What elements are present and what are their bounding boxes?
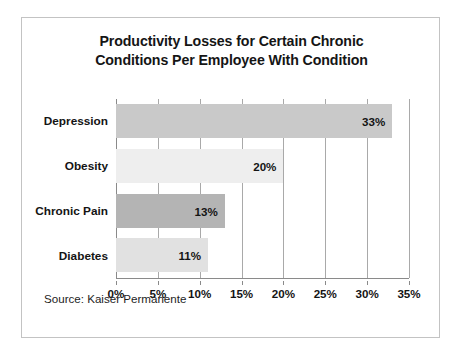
chart-title: Productivity Losses for Certain Chronic …: [22, 32, 441, 70]
bar-value-label: 20%: [253, 159, 276, 172]
plot-area: 33%20%13%11% DepressionObesityChronic Pa…: [116, 99, 409, 278]
category-label-slot: Chronic Pain: [0, 189, 108, 234]
bar-row: 13%: [116, 189, 409, 234]
tick-mark: [116, 281, 117, 285]
chart-title-line-2: Conditions Per Employee With Condition: [22, 51, 441, 70]
tick-mark: [367, 281, 368, 285]
category-label-slot: Depression: [0, 99, 108, 144]
bar-row: 11%: [116, 233, 409, 278]
bar-series: 33%20%13%11%: [116, 99, 409, 278]
bar-depression[interactable]: 33%: [116, 104, 392, 138]
category-label-slot: Obesity: [0, 144, 108, 189]
bar-chronic-pain[interactable]: 13%: [116, 194, 225, 228]
chart-title-line-1: Productivity Losses for Certain Chronic: [22, 32, 441, 51]
category-label-diabetes: Diabetes: [59, 249, 108, 263]
category-label-slot: Diabetes: [0, 233, 108, 278]
x-axis-line: [116, 278, 409, 279]
category-label-chronic-pain: Chronic Pain: [35, 204, 108, 218]
tick-mark: [409, 281, 410, 285]
tick-mark: [200, 281, 201, 285]
chart-figure-frame: Productivity Losses for Certain Chronic …: [21, 17, 440, 338]
category-label-obesity: Obesity: [65, 159, 108, 173]
tick-mark: [283, 281, 284, 285]
bar-row: 33%: [116, 99, 409, 144]
source-note: Source: Kaiser Permanente: [44, 292, 186, 305]
gridline-35: [409, 99, 410, 278]
tick-mark: [158, 281, 159, 285]
tick-label-35: 35%: [379, 287, 439, 300]
bar-value-label: 13%: [195, 204, 218, 217]
bar-diabetes[interactable]: 11%: [116, 238, 208, 272]
bar-value-label: 33%: [362, 115, 385, 128]
bar-row: 20%: [116, 144, 409, 189]
tick-mark: [325, 281, 326, 285]
bar-value-label: 11%: [179, 249, 202, 262]
category-label-depression: Depression: [44, 114, 108, 128]
bar-obesity[interactable]: 20%: [116, 149, 283, 183]
tick-mark: [242, 281, 243, 285]
